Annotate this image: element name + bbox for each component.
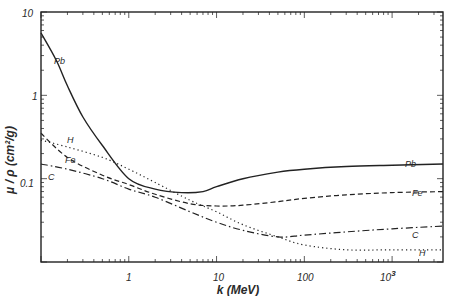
y-axis-label: μ / ρ (cm²/g) bbox=[3, 126, 17, 195]
label-c-left: C bbox=[48, 172, 55, 182]
label-h-right: H bbox=[419, 248, 426, 258]
label-pb-right: Pb bbox=[405, 159, 416, 169]
label-pb-left: Pb bbox=[54, 56, 65, 66]
attenuation-chart: 10 1 0.1 1 10 100 103 k (MeV) μ / ρ (cm²… bbox=[0, 0, 449, 296]
curve-h bbox=[41, 140, 443, 250]
curve-pb bbox=[41, 33, 443, 193]
xtick-10: 10 bbox=[213, 272, 225, 283]
label-fe-right: Fe bbox=[412, 188, 423, 198]
label-h-left: H bbox=[67, 135, 74, 145]
label-fe-left: Fe bbox=[65, 155, 76, 165]
ytick-10: 10 bbox=[22, 8, 34, 19]
curves bbox=[41, 33, 443, 250]
ytick-0.1: 0.1 bbox=[20, 178, 34, 189]
label-c-right: C bbox=[412, 230, 419, 240]
ytick-1: 1 bbox=[32, 91, 38, 102]
x-axis-label: k (MeV) bbox=[217, 283, 260, 296]
xtick-1: 1 bbox=[126, 272, 132, 283]
xtick-1000: 103 bbox=[380, 269, 396, 283]
xtick-100: 100 bbox=[297, 272, 314, 283]
